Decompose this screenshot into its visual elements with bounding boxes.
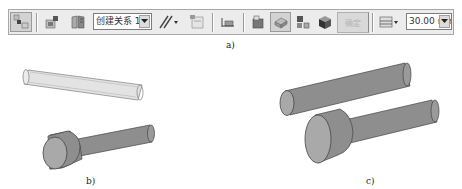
subassembly-icon xyxy=(295,14,311,30)
assembled-stepped-pin xyxy=(305,100,439,163)
book-icon xyxy=(70,14,86,30)
select-body-button[interactable] xyxy=(315,12,335,32)
dropdown-arrow-icon[interactable] xyxy=(139,15,150,28)
construction-display-button[interactable] xyxy=(186,12,208,32)
body-icon xyxy=(317,14,333,30)
stepped-pin xyxy=(43,125,155,169)
relation-select-value: 创建关系 1 xyxy=(96,16,141,26)
place-part-button[interactable] xyxy=(41,12,63,32)
relation-select[interactable]: 创建关系 1 xyxy=(93,13,152,30)
place-part-icon xyxy=(44,14,60,30)
assembly-toolbar: 创建关系 1 xyxy=(8,9,454,35)
figure-b-parts xyxy=(0,55,180,175)
figure-c-parts xyxy=(260,55,462,175)
select-tool-button[interactable] xyxy=(10,12,32,32)
offset-type-icon xyxy=(378,14,400,30)
assembled-rod xyxy=(280,63,411,116)
flip-offset-button[interactable] xyxy=(217,12,239,32)
separator xyxy=(243,13,245,32)
construction-icon xyxy=(189,14,205,30)
separator xyxy=(212,13,214,32)
select-part-button[interactable] xyxy=(270,12,291,32)
book-options-button[interactable] xyxy=(67,12,89,32)
parallel-lines-icon xyxy=(158,14,180,30)
part-select-icon xyxy=(273,14,289,30)
caption-c: c) xyxy=(366,176,375,186)
offset-distance-select[interactable]: 30.00 mm xyxy=(406,13,452,30)
caption-b: b) xyxy=(86,176,95,186)
separator xyxy=(36,13,38,32)
face-select-icon xyxy=(250,14,266,30)
offset-type-button[interactable] xyxy=(377,12,401,32)
select-face-button[interactable] xyxy=(248,12,268,32)
transparent-rod xyxy=(23,70,143,101)
caption-a: a) xyxy=(226,40,235,50)
ok-button-label: 确定 xyxy=(345,17,361,28)
relation-type-button[interactable] xyxy=(156,12,182,32)
ok-button[interactable]: 确定 xyxy=(337,12,369,33)
separator xyxy=(372,13,374,32)
select-subassembly-button[interactable] xyxy=(293,12,313,32)
select-parts-icon xyxy=(13,14,29,30)
flip-icon xyxy=(220,14,236,30)
dropdown-arrow-icon[interactable] xyxy=(439,15,450,28)
